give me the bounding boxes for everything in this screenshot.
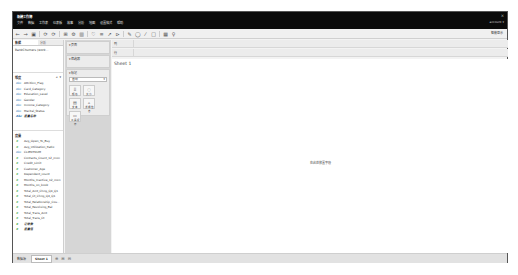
tableau-window: 新建工作簿 × account ▾ 文件 数据 工作表 仪表板 故事 分析 地图… xyxy=(12,11,508,263)
toolbar-divider xyxy=(39,31,40,37)
duplicate-icon[interactable]: ⚙ xyxy=(71,29,76,39)
worksheet-view[interactable]: Sheet 1 在此处放置字段 xyxy=(112,59,508,253)
sort-desc-icon[interactable]: ↗ xyxy=(107,29,112,39)
pages-card[interactable]: ▾ 页面 xyxy=(66,41,110,54)
mark-buttons: ⠿颜色 ◌大小 ▤文本 ▵详细信息 ▭工具提示 xyxy=(67,83,109,124)
sheet-tab[interactable]: Sheet 1 xyxy=(31,255,52,263)
pages-card-title: ▾ 页面 xyxy=(67,42,109,48)
refresh-icon[interactable]: ⟳ xyxy=(51,29,56,39)
dimension-field[interactable]: Abc度量名称 xyxy=(13,114,63,120)
back-icon[interactable]: ← xyxy=(15,29,20,39)
presentation-icon[interactable]: ▦ xyxy=(163,29,168,39)
pen-icon[interactable]: ⁄ xyxy=(143,29,148,39)
toolbar: ← → ▣ ⟳ ⟳ ⊞ ⚙ ▥ ♡ ≡ ↗ ⊳ ✎ ◯ ⁄ □ ▦ ♀ 智能显示 xyxy=(13,29,507,39)
marks-card: ▾ 标记 自动▾ ⠿颜色 ◌大小 ▤文本 ▵详细信息 ▭工具提示 xyxy=(66,69,110,116)
text-button[interactable]: ▤文本 xyxy=(69,98,81,109)
columns-shelf[interactable]: 列 xyxy=(112,40,508,48)
menu-story[interactable]: 故事 xyxy=(67,20,73,25)
menu-map[interactable]: 地图 xyxy=(89,20,95,25)
tooltip-icon: ▭ xyxy=(70,113,80,118)
measures-section: 度量 #Avg_Open_To_Buy #Avg_Utilization_Rat… xyxy=(13,131,63,233)
tab-analysis[interactable]: 分析 xyxy=(38,40,63,45)
window-title: 新建工作簿 xyxy=(17,14,32,19)
highlight-icon[interactable]: ✎ xyxy=(127,29,132,39)
dimensions-section: 维度⌕ ▾ AbcAttrition_Flag AbcCard_Category… xyxy=(13,73,63,131)
menu-analysis[interactable]: 分析 xyxy=(78,20,84,25)
tab-data[interactable]: 数据 xyxy=(13,40,38,45)
sheet-tab-bar: 数据源 Sheet 1 ⊕ ⊞ ⊟ xyxy=(13,253,507,263)
new-datasource-icon[interactable]: ⟳ xyxy=(43,29,48,39)
filters-card-title: ▾ 筛选器 xyxy=(67,56,109,62)
menu-dashboard[interactable]: 仪表板 xyxy=(53,20,62,25)
marks-card-title: ▾ 标记 xyxy=(67,70,109,76)
save-icon[interactable]: ▣ xyxy=(31,29,36,39)
measures-header: 度量 xyxy=(13,131,63,139)
rows-shelf[interactable]: 行 xyxy=(112,49,508,57)
forward-icon[interactable]: → xyxy=(23,29,28,39)
close-icon[interactable]: × xyxy=(501,13,504,18)
mark-type-dropdown[interactable]: 自动▾ xyxy=(69,77,107,82)
new-dashboard-icon[interactable]: ⊞ xyxy=(61,256,64,261)
labels-icon[interactable]: ◯ xyxy=(135,29,140,39)
columns-shelf-label: 列 xyxy=(112,40,134,47)
menu-help[interactable]: 帮助 xyxy=(117,20,123,25)
clear-sheet-icon[interactable]: ▥ xyxy=(79,29,84,39)
toolbar-divider xyxy=(87,31,88,37)
toolbar-divider xyxy=(123,31,124,37)
group-icon[interactable]: ⊳ xyxy=(115,29,120,39)
data-pane: 数据 分析 BankChurners (work... 维度⌕ ▾ AbcAtt… xyxy=(13,40,64,253)
measure-field[interactable]: #度量值 xyxy=(13,227,63,233)
chevron-down-icon: ▾ xyxy=(104,78,105,81)
cards-pane: ▾ 页面 ▾ 筛选器 ▾ 标记 自动▾ ⠿颜色 ◌大小 ▤文本 ▵详细信息 ▭工… xyxy=(65,40,111,253)
search-icon[interactable]: ⌕ ▾ xyxy=(56,75,61,80)
share-icon[interactable]: ♀ xyxy=(171,29,176,39)
sheet-title[interactable]: Sheet 1 xyxy=(114,61,131,66)
datasource-item[interactable]: BankChurners (work... xyxy=(13,46,63,73)
detail-button[interactable]: ▵详细信息 xyxy=(83,98,95,109)
sort-asc-icon[interactable]: ≡ xyxy=(99,29,104,39)
show-me-button[interactable]: 智能显示 xyxy=(491,31,503,35)
menu-bar: 文件 数据 工作表 仪表板 故事 分析 地图 设置格式 帮助 xyxy=(17,20,123,25)
menu-file[interactable]: 文件 xyxy=(17,20,23,25)
drop-field-placeholder: 在此处放置字段 xyxy=(310,161,331,165)
toolbar-divider xyxy=(159,31,160,37)
datasource-tab[interactable]: 数据源 xyxy=(15,257,28,261)
dimensions-header: 维度⌕ ▾ xyxy=(13,73,63,81)
fit-icon[interactable]: □ xyxy=(151,29,156,39)
swap-icon[interactable]: ♡ xyxy=(91,29,96,39)
menu-worksheet[interactable]: 工作表 xyxy=(39,20,48,25)
size-icon: ◌ xyxy=(84,87,94,92)
new-sheet-icon[interactable]: ⊞ xyxy=(63,29,68,39)
menu-data[interactable]: 数据 xyxy=(28,20,34,25)
tooltip-button[interactable]: ▭工具提示 xyxy=(69,111,81,122)
detail-icon: ▵ xyxy=(84,100,94,105)
filters-card[interactable]: ▾ 筛选器 xyxy=(66,55,110,68)
size-button[interactable]: ◌大小 xyxy=(83,85,95,96)
menu-format[interactable]: 设置格式 xyxy=(100,20,112,25)
shelves: 列 行 xyxy=(112,40,508,58)
color-button[interactable]: ⠿颜色 xyxy=(69,85,81,96)
account-menu[interactable]: account ▾ xyxy=(490,20,504,24)
rows-shelf-label: 行 xyxy=(112,49,134,56)
color-icon: ⠿ xyxy=(70,87,80,92)
text-icon: ▤ xyxy=(70,100,80,105)
title-bar: 新建工作簿 × account ▾ 文件 数据 工作表 仪表板 故事 分析 地图… xyxy=(13,12,507,29)
new-story-icon[interactable]: ⊟ xyxy=(68,256,71,261)
new-worksheet-icon[interactable]: ⊕ xyxy=(55,256,58,261)
toolbar-divider xyxy=(59,31,60,37)
